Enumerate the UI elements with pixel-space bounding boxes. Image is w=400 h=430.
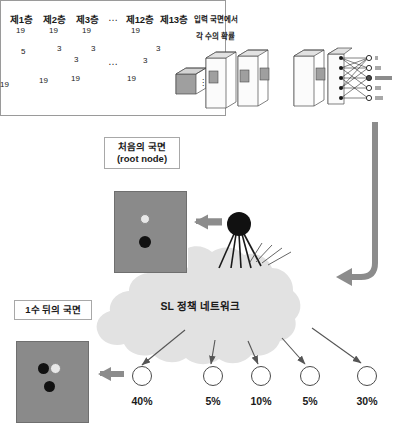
root-callout-line1: 처음의 국면: [110, 141, 174, 153]
child-board-stone-black-1: [38, 363, 49, 374]
nn-kernel-label-4: 3: [91, 44, 95, 53]
nn-layer-ellipsis: …: [108, 12, 119, 23]
nn-hidden-dots: [339, 56, 343, 100]
nn-side-dim-2: 19: [39, 76, 48, 85]
nn-layer-label-12: 제12층: [126, 12, 153, 26]
nn-fc-edges: [341, 58, 368, 98]
root-fanout-lines: [219, 234, 261, 268]
arrow-root-to-board: [194, 215, 222, 230]
leaf-node-3: [251, 366, 271, 386]
nn-plane-12: [294, 50, 324, 106]
nn-layer-label-3: 제3층: [76, 12, 98, 26]
nn-input-caption: 입력 국면에서: [194, 13, 238, 24]
root-node-callout: 처음의 국면 (root node): [104, 137, 180, 169]
nn-dim-12: 19: [131, 26, 140, 35]
nn-side-dim-1: 19: [0, 80, 9, 89]
nn-dim-1: 19: [16, 26, 25, 35]
nn-side-dim-12: 19: [127, 74, 136, 83]
nn-kernel-3b: [260, 68, 269, 80]
nn-kernel-12: [316, 68, 325, 80]
leaf-pct-4: 5%: [288, 395, 332, 407]
leaf-node-4: [300, 366, 320, 386]
nn-kernel-label-2: 3: [57, 44, 61, 53]
leaf-pct-3: 10%: [239, 395, 283, 407]
child-board-stone-black-2: [44, 381, 55, 392]
nn-middle-ellipsis: …: [108, 56, 119, 67]
diagram-canvas: 제1층 제2층 제3층 … 제12층 제13층 입력 국면에서 19 19 19…: [0, 0, 400, 430]
leaf-node-2: [203, 366, 223, 386]
nn-kernel-label-5: 3: [143, 56, 147, 65]
policy-network-architecture-panel: 제1층 제2층 제3층 … 제12층 제13층 입력 국면에서 19 19 19…: [0, 0, 226, 116]
nn-kernel-label-3: 3: [74, 55, 78, 64]
arrow-leaf-to-board: [98, 367, 124, 381]
root-node-marker: [227, 212, 251, 236]
root-callout-line2: (root node): [110, 153, 174, 165]
root-go-board: [114, 191, 187, 273]
child-callout-line1: 1수 뒤의 국면: [20, 304, 86, 316]
nn-output-caption: 각 수의 확률: [196, 30, 235, 41]
leaf-pct-1: 40%: [120, 395, 164, 407]
child-go-board: [16, 341, 89, 423]
arrow-network-to-cloud: [336, 122, 375, 286]
nn-kernel-label-1: 5: [21, 47, 25, 56]
cloud-to-leaves-lines: [142, 328, 361, 365]
nn-plane-3: [238, 50, 268, 106]
nn-layer-label-1: 제1층: [10, 12, 32, 26]
nn-output-ellipsis: ⋮: [199, 78, 207, 87]
nn-layer-label-2: 제2층: [43, 12, 65, 26]
nn-output-nodes: [366, 55, 371, 100]
leaf-node-5: [357, 366, 377, 386]
nn-output-bars: [375, 56, 392, 100]
nn-dim-3: 19: [82, 26, 91, 35]
nn-layer-label-13: 제13층: [160, 12, 187, 26]
leaf-node-1: [132, 366, 152, 386]
nn-side-dim-3: 19: [71, 74, 80, 83]
cloud-top-lines: [250, 243, 291, 265]
leaf-pct-5: 30%: [345, 395, 389, 407]
root-board-stone-white: [140, 214, 150, 224]
nn-kernel-3: [240, 70, 249, 82]
child-board-stone-white: [50, 363, 61, 374]
nn-kernel-label-6: 3: [156, 44, 160, 53]
nn-plane-13: [328, 48, 352, 104]
child-node-callout: 1수 뒤의 국면: [14, 300, 92, 320]
root-board-stone-black: [139, 236, 151, 248]
leaf-pct-2: 5%: [191, 395, 235, 407]
nn-dim-2: 19: [49, 26, 58, 35]
